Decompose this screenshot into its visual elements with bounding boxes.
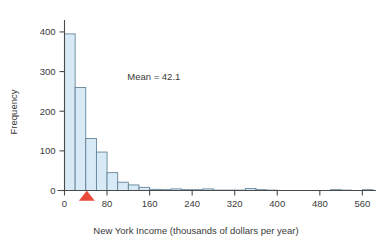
mean-marker-triangle-icon — [79, 191, 94, 201]
y-tick-label: 100 — [40, 145, 56, 156]
x-tick-label: 80 — [102, 198, 113, 209]
mean-annotation-label: Mean = 42.1 — [127, 71, 180, 82]
mean-marker-layer — [79, 191, 94, 201]
histogram-bar — [96, 152, 107, 190]
histogram-bar — [65, 34, 76, 191]
y-tick-label: 0 — [50, 185, 55, 196]
x-tick-label: 480 — [312, 198, 328, 209]
histogram-bar — [107, 173, 118, 191]
y-tick-label: 300 — [40, 66, 56, 77]
x-axis-title: New York Income (thousands of dollars pe… — [93, 225, 298, 236]
x-tick-label: 560 — [354, 198, 370, 209]
histogram-bar — [118, 182, 129, 190]
y-tick-label: 400 — [40, 26, 56, 37]
x-tick-label: 0 — [62, 198, 67, 209]
histogram-chart: 0100200300400 080160240320400480560 Mean… — [0, 0, 384, 243]
chart-canvas: 0100200300400 080160240320400480560 Mean… — [0, 0, 384, 243]
x-tick-label: 160 — [142, 198, 158, 209]
bars-layer — [65, 34, 374, 191]
y-tick-label: 200 — [40, 106, 56, 117]
histogram-bar — [75, 87, 86, 190]
x-tick-label: 320 — [227, 198, 243, 209]
y-axis-ticks: 0100200300400 — [40, 26, 65, 196]
histogram-bar — [128, 185, 139, 191]
histogram-bar — [86, 139, 97, 191]
x-axis-ticks: 080160240320400480560 — [62, 191, 370, 209]
x-tick-label: 400 — [269, 198, 285, 209]
y-axis-title: Frequency — [8, 89, 19, 134]
x-tick-label: 240 — [184, 198, 200, 209]
